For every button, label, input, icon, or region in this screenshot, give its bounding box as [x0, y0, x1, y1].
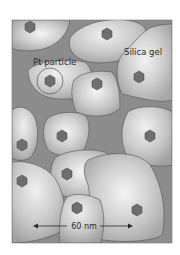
- silica-gel-pt-diagram: Pt particle Silica gel 60 nm: [0, 0, 180, 255]
- silica-grain: [72, 71, 120, 116]
- silica-gel-label: Silica gel: [124, 47, 162, 57]
- scale-bar-label: 60 nm: [71, 222, 97, 231]
- pt-particle-label: Pt particle: [33, 57, 76, 67]
- silica-grain: [59, 194, 104, 243]
